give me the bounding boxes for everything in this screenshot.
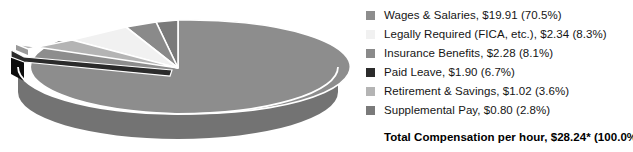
legend-swatch-legally-required	[366, 30, 375, 39]
legend-swatch-supplemental-pay	[366, 106, 375, 115]
legend-item[interactable]: Paid Leave, $1.90 (6.7%)	[366, 63, 633, 82]
legend-item[interactable]: Wages & Salaries, $19.91 (70.5%)	[366, 6, 633, 25]
legend: Wages & Salaries, $19.91 (70.5%) Legally…	[366, 6, 633, 143]
legend-label: Retirement & Savings, $1.02 (3.6%)	[384, 82, 569, 101]
legend-label: Legally Required (FICA, etc.), $2.34 (8.…	[384, 25, 607, 44]
legend-swatch-wages-salaries	[366, 11, 375, 20]
pie-chart-graphic	[0, 0, 352, 152]
legend-label: Supplemental Pay, $0.80 (2.8%)	[384, 101, 550, 120]
total-compensation-line: Total Compensation per hour, $28.24* (10…	[366, 131, 633, 143]
legend-item[interactable]: Insurance Benefits, $2.28 (8.1%)	[366, 44, 633, 63]
legend-swatch-insurance-benefits	[366, 49, 375, 58]
legend-item[interactable]: Legally Required (FICA, etc.), $2.34 (8.…	[366, 25, 633, 44]
legend-label: Wages & Salaries, $19.91 (70.5%)	[384, 6, 562, 25]
legend-label: Paid Leave, $1.90 (6.7%)	[384, 63, 515, 82]
legend-item[interactable]: Retirement & Savings, $1.02 (3.6%)	[366, 82, 633, 101]
legend-item[interactable]: Supplemental Pay, $0.80 (2.8%)	[366, 101, 633, 120]
pie-svg	[0, 0, 352, 152]
legend-label: Insurance Benefits, $2.28 (8.1%)	[384, 44, 553, 63]
legend-swatch-retirement-savings	[366, 87, 375, 96]
legend-swatch-paid-leave	[366, 68, 375, 77]
pie-chart-figure: Wages & Salaries, $19.91 (70.5%) Legally…	[0, 0, 633, 152]
